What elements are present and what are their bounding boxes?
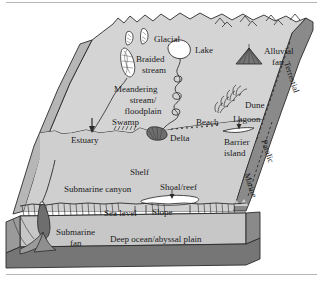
- label-submarine-fan: Submarine: [56, 227, 95, 237]
- label-braided-stream: Braided: [136, 54, 165, 64]
- label-meandering-stream: Meandering: [114, 84, 158, 94]
- label-braided-stream-line2: stream: [142, 65, 166, 75]
- label-slope: Slope: [152, 207, 173, 217]
- label-barrier-island: Barrier: [224, 137, 249, 147]
- label-lake: Lake: [195, 45, 213, 55]
- label-meandering-stream-line3: floodplain: [125, 106, 162, 116]
- label-alluvial-fan: Alluvial: [264, 46, 294, 56]
- label-submarine-canyon: Submarine canyon: [64, 184, 132, 194]
- label-deep-ocean: Deep ocean/abyssal plain: [110, 234, 202, 244]
- label-swamp: Swamp: [112, 117, 140, 127]
- label-submarine-fan-line2: fan: [70, 238, 82, 248]
- base-right-bevel: [246, 212, 260, 244]
- label-barrier-island-line2: island: [224, 148, 246, 158]
- label-shelf: Shelf: [130, 167, 149, 177]
- label-estuary: Estuary: [71, 135, 99, 145]
- block-diagram: Glacial Braided stream Lake Alluvial fan…: [0, 0, 323, 281]
- label-alluvial-fan-line2: fan: [272, 57, 284, 67]
- label-lagoon: Lagoon: [233, 114, 261, 124]
- figure-root: Glacial Braided stream Lake Alluvial fan…: [0, 0, 323, 281]
- label-meandering-stream-line2: stream/: [130, 95, 157, 105]
- label-shoal-reef: Shoal/reef: [160, 182, 197, 192]
- shelf-surface: [24, 120, 262, 211]
- label-dune: Dune: [245, 100, 265, 110]
- label-sea-level: Sea level: [104, 208, 137, 218]
- label-delta: Delta: [170, 133, 190, 143]
- label-beach: Beach: [196, 117, 219, 127]
- label-glacial: Glacial: [154, 34, 180, 44]
